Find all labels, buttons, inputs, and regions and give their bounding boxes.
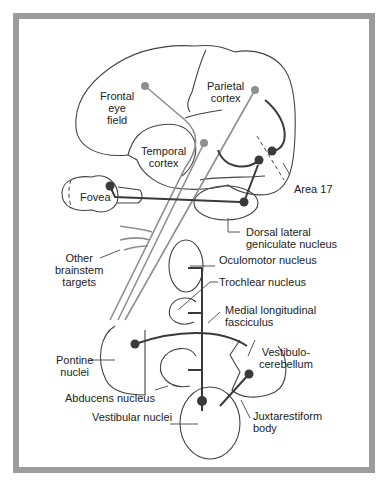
label-area-17: Area 17 [294,183,333,195]
label-line: Medial longitudinal [225,304,316,316]
label-pontine-nuclei: Pontine nuclei [56,354,93,378]
label-line: eye [100,102,134,114]
pontocerebellar-pathway [135,333,247,346]
label-parietal-cortex: Parietal cortex [207,80,244,104]
label-line: Temporal [141,145,186,157]
label-line: nuclei [56,366,93,378]
label-line: body [253,422,322,434]
label-line: fasciculus [225,316,316,328]
brainstem-branches [120,226,152,250]
label-fovea: Fovea [80,191,111,203]
vestibular-mlf-dot [197,396,207,406]
label-vestibular-nuclei: Vestibular nuclei [92,411,172,423]
central-sulcus [188,50,206,112]
label-line: field [100,114,134,126]
label-line: targets [55,276,103,288]
label-line: Vestibulo- [259,346,313,358]
cerebellar-margin [200,176,265,180]
label-line: Parietal [207,80,244,92]
label-line: Dorsal lateral [246,226,337,238]
vestibular-nuclei-outline [180,387,240,459]
label-trochlear-nucleus: Trochlear nucleus [219,276,306,288]
eye-lens-dashed [69,180,72,208]
label-other-brainstem-targets: Other brainstem targets [55,252,103,288]
temporal-pathway [118,143,204,320]
label-frontal-eye-field: Frontal eye field [100,90,134,126]
leader-lines [90,163,290,424]
label-oculomotor-nucleus: Oculomotor nucleus [219,254,317,266]
label-dorsal-lateral-geniculate: Dorsal lateral geniculate nucleus [246,226,337,250]
label-line: cortex [207,92,244,104]
label-line: cerebellum [259,358,313,370]
label-juxtarestiform-body: Juxtarestiform body [253,410,322,434]
label-medial-longitudinal-fasciculus: Medial longitudinal fasciculus [225,304,316,328]
label-vestibulocerebellum: Vestibulo- cerebellum [259,346,313,370]
area-17-to-parietal [265,100,285,151]
label-line: Pontine [56,354,93,366]
optic-nerve-stub [117,187,142,203]
label-line: Other [55,252,103,264]
label-line: Frontal [100,90,134,102]
trochlear-nucleus-outline [169,298,196,324]
label-line: cortex [141,157,186,169]
label-line: brainstem [55,264,103,276]
label-line: geniculate nucleus [246,238,337,250]
area-17-to-temporal [218,150,259,167]
label-abducens-nucleus: Abducens nucleus [65,392,155,404]
label-line: Juxtarestiform [253,410,322,422]
pontine-nuclei-outline [100,326,145,395]
lateral-sulcus [185,110,222,118]
label-temporal-cortex: Temporal cortex [141,145,186,169]
abducens-nucleus-outline [160,349,196,387]
